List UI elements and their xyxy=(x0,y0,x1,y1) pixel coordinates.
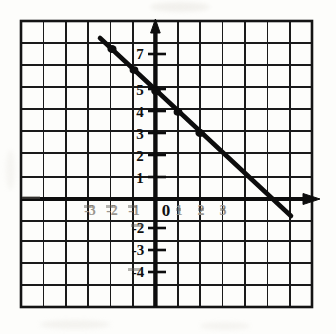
ink-smudges xyxy=(22,196,225,271)
y-tick-label-5: 5 xyxy=(136,82,144,98)
line-point-marker xyxy=(130,66,139,74)
origin-label: 0 xyxy=(162,201,171,220)
y-tick-label-neg3: -3 xyxy=(132,242,145,258)
grid-lines xyxy=(21,21,312,307)
y-tick-label-3: 3 xyxy=(136,126,144,142)
line-point-marker xyxy=(174,108,183,116)
y-tick-label-neg2: -2 xyxy=(132,220,145,236)
line-point-marker xyxy=(107,45,116,53)
y-tick-label-neg4: -4 xyxy=(132,264,145,280)
y-tick-label-4: 4 xyxy=(136,104,144,120)
graph-plot: 7 5 4 3 2 1 -2 -3 -4 0 -3 -2 -1 1 2 3 xyxy=(0,0,336,334)
y-axis-tick-labels: 7 5 4 3 2 1 xyxy=(136,46,144,186)
y-tick-label-7: 7 xyxy=(136,46,144,62)
grid-border xyxy=(21,21,312,307)
line-point-marker xyxy=(195,129,204,137)
y-tick-label-1: 1 xyxy=(136,170,144,186)
y-tick-label-2: 2 xyxy=(136,148,144,164)
figure-canvas: 7 5 4 3 2 1 -2 -3 -4 0 -3 -2 -1 1 2 3 xyxy=(0,0,336,334)
